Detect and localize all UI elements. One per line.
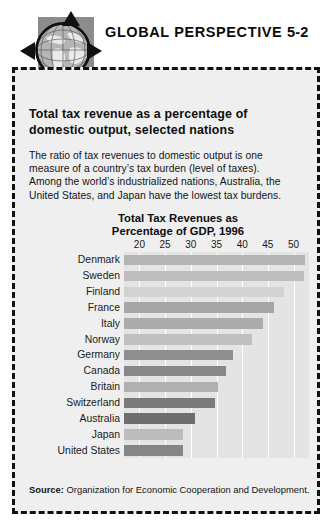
chart-title: Total Tax Revenues as Percentage of GDP,… <box>29 212 303 238</box>
page-title-text: GLOBAL PERSPECTIVE <box>105 24 282 40</box>
bar <box>124 334 252 344</box>
chart-row: Sweden <box>29 268 309 284</box>
chart-row: Germany <box>29 347 309 363</box>
chart-row: France <box>29 300 309 316</box>
x-tick-label: 30 <box>185 239 196 250</box>
chart-title-line1: Total Tax Revenues as <box>53 212 303 225</box>
bar-chart: Total Tax Revenues as Percentage of GDP,… <box>29 212 303 462</box>
category-label: Italy <box>29 316 120 332</box>
chart-row: Britain <box>29 379 309 395</box>
x-tick-label: 20 <box>134 239 145 250</box>
x-axis-tick-labels: 20253035404550 <box>29 239 303 252</box>
feature-panel: Total tax revenue as a percentage of dom… <box>12 67 320 514</box>
bar <box>124 255 305 265</box>
category-label: Sweden <box>29 268 120 284</box>
bar <box>124 398 215 408</box>
chart-row: United States <box>29 443 309 459</box>
bar <box>124 429 183 439</box>
body-line-2: measure of a country’s tax burden (level… <box>29 162 303 175</box>
plot-area: DenmarkSwedenFinlandFranceItalyNorwayGer… <box>124 252 309 458</box>
body-line-1: The ratio of tax revenues to domestic ou… <box>29 149 303 162</box>
source-text: Organization for Economic Cooperation an… <box>67 484 310 495</box>
chart-row: Denmark <box>29 252 309 268</box>
bar <box>124 271 304 281</box>
source-label: Source: <box>29 484 64 495</box>
panel-subtitle-line1: Total tax revenue as a percentage of <box>29 107 303 123</box>
bar <box>124 350 233 360</box>
page-title: GLOBAL PERSPECTIVE 5-2 <box>105 24 309 40</box>
category-label: Norway <box>29 332 120 348</box>
source-note: Source: Organization for Economic Cooper… <box>29 484 303 495</box>
category-label: Finland <box>29 284 120 300</box>
chart-title-line2: Percentage of GDP, 1996 <box>53 225 303 238</box>
chart-row: Switzerland <box>29 395 309 411</box>
bar <box>124 445 183 455</box>
chart-row: Canada <box>29 363 309 379</box>
bar <box>124 382 218 392</box>
bar <box>124 413 195 423</box>
category-label: Canada <box>29 363 120 379</box>
arrow-left-icon <box>20 42 35 60</box>
panel-body-text: The ratio of tax revenues to domestic ou… <box>29 149 303 202</box>
panel-subtitle: Total tax revenue as a percentage of dom… <box>29 107 303 138</box>
chart-row: Japan <box>29 427 309 443</box>
category-label: Australia <box>29 411 120 427</box>
x-tick-label: 40 <box>237 239 248 250</box>
body-line-3: Among the world’s industrialized nations… <box>29 175 303 188</box>
chart-row: Australia <box>29 411 309 427</box>
arrow-right-icon <box>87 42 102 60</box>
x-tick-label: 25 <box>160 239 171 250</box>
bar <box>124 318 263 328</box>
category-label: Britain <box>29 379 120 395</box>
x-tick-label: 35 <box>211 239 222 250</box>
category-label: Germany <box>29 347 120 363</box>
bar <box>124 366 226 376</box>
bar <box>124 302 274 312</box>
category-label: Japan <box>29 427 120 443</box>
bar <box>124 287 284 297</box>
category-label: France <box>29 300 120 316</box>
category-label: Denmark <box>29 252 120 268</box>
page-title-number: 5-2 <box>287 24 309 40</box>
arrow-up-icon <box>62 11 80 26</box>
category-label: Switzerland <box>29 395 120 411</box>
body-line-4: United States, and Japan have the lowest… <box>29 189 303 202</box>
chart-row: Finland <box>29 284 309 300</box>
panel-subtitle-line2: domestic output, selected nations <box>29 123 303 139</box>
chart-row: Italy <box>29 316 309 332</box>
x-tick-label: 45 <box>262 239 273 250</box>
chart-row: Norway <box>29 332 309 348</box>
category-label: United States <box>29 443 120 459</box>
x-tick-label: 50 <box>288 239 299 250</box>
